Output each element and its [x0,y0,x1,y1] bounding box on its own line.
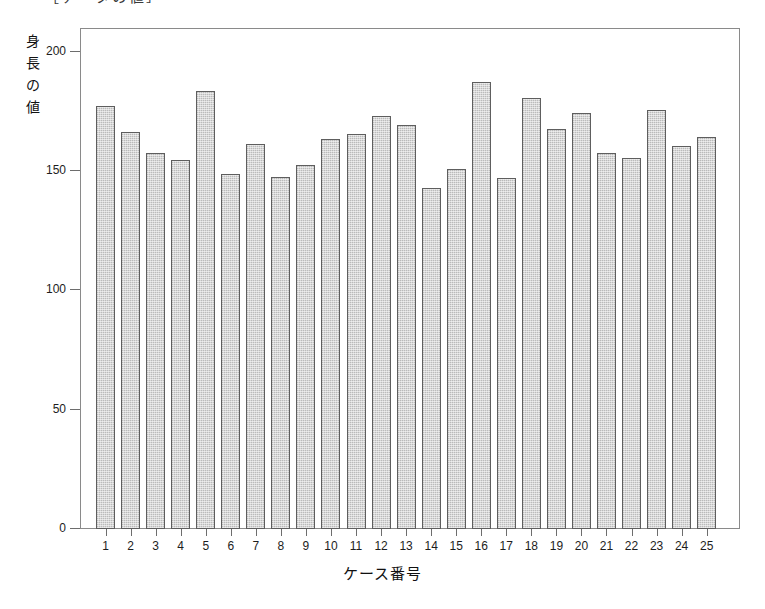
x-axis-tick-mark [231,529,232,536]
top-cropped-text-label: ［データの値］ [44,0,234,4]
y-axis-title-char: の [22,74,44,96]
x-axis-tick-label: 25 [692,539,722,553]
x-axis-tick-mark [456,529,457,536]
x-axis-tick-mark [606,529,607,536]
bar [146,153,165,529]
x-axis-tick-mark [331,529,332,536]
x-axis-title: ケース番号 [0,562,765,583]
x-axis-tick-mark [281,529,282,536]
bar [221,174,240,529]
x-axis-tick-mark [707,529,708,536]
x-axis-tick-mark [431,529,432,536]
y-axis-tick-mark [70,528,80,529]
y-axis-tick-mark [70,409,80,410]
x-axis-tick-mark [531,529,532,536]
bar [472,82,491,529]
bar [497,178,516,529]
bar [296,165,315,529]
x-axis-tick-mark [581,529,582,536]
y-axis-tick-label: 0 [34,521,66,535]
y-axis-tick-mark [70,289,80,290]
bars-layer [80,28,740,529]
x-axis-tick-mark [481,529,482,536]
bar [347,134,366,529]
x-axis-tick-mark [106,529,107,536]
x-axis-tick-mark [556,529,557,536]
y-axis-title-char: 値 [22,96,44,118]
y-axis-tick-label: 200 [34,44,66,58]
x-axis-tick-mark [632,529,633,536]
bar [647,110,666,529]
bar [171,160,190,529]
y-axis-tick-label: 50 [34,402,66,416]
x-axis-tick-mark [381,529,382,536]
bar [246,144,265,529]
bar [547,129,566,529]
bar [672,146,691,529]
bar-chart-figure: ［データの値］ 身長の値 050100150200 12345678910111… [0,0,765,609]
bar [422,188,441,529]
bar [321,139,340,529]
bar [447,169,466,529]
x-axis-tick-mark [657,529,658,536]
x-axis-tick-mark [181,529,182,536]
x-axis-tick-mark [256,529,257,536]
x-axis-tick-mark [682,529,683,536]
bar [372,116,391,529]
y-axis-tick-mark [70,170,80,171]
x-axis-tick-mark [356,529,357,536]
bar [397,125,416,529]
bar [196,91,215,529]
bar [622,158,641,529]
bar [96,106,115,529]
bar [697,137,716,529]
bar [271,177,290,529]
y-axis-tick-label: 100 [34,282,66,296]
x-axis-tick-mark [406,529,407,536]
x-axis-tick-mark [306,529,307,536]
y-axis-tick-mark [70,51,80,52]
bar [597,153,616,529]
top-cropped-text: ［データの値］ [44,0,234,6]
x-axis-tick-mark [506,529,507,536]
x-axis-tick-mark [156,529,157,536]
x-axis-tick-mark [131,529,132,536]
x-axis-tick-mark [206,529,207,536]
y-axis-tick-label: 150 [34,163,66,177]
bar [121,132,140,529]
bar [572,113,591,529]
bar [522,98,541,529]
